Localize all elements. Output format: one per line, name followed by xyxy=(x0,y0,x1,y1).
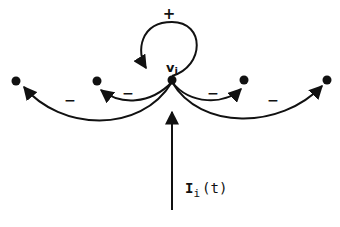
self-loop-sign: + xyxy=(163,5,176,23)
node-far-left xyxy=(12,77,21,86)
edge-sign-near-left: − xyxy=(122,85,134,101)
node-near-right xyxy=(240,76,249,85)
edge-sign-near-right: − xyxy=(207,85,219,101)
edge-near-left xyxy=(101,82,172,100)
edge-far-right xyxy=(172,82,322,119)
edge-sign-far-right: − xyxy=(267,92,279,108)
edge-far-left xyxy=(24,82,172,121)
node-near-left xyxy=(93,77,102,86)
input-label: Ii(t) xyxy=(185,180,227,200)
edge-sign-far-left: − xyxy=(64,92,76,108)
central-node-label: vi xyxy=(166,60,178,77)
node-far-right xyxy=(323,76,332,85)
neuron-diagram: + − − − − vi Ii(t) xyxy=(0,0,340,227)
